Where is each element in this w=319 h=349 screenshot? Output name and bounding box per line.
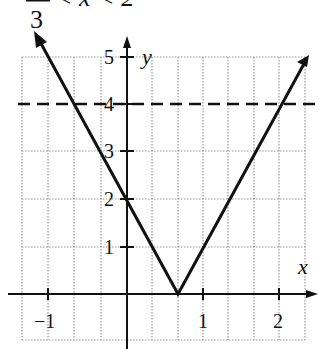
x-tick-label: 2 (273, 310, 283, 332)
grid (22, 57, 305, 340)
header-rest: < x < 2 (55, 0, 134, 12)
ticks (48, 57, 279, 300)
header-minus: − (2, 0, 17, 12)
y-tick-label: 1 (104, 236, 114, 258)
y-axis-label: y (140, 44, 152, 69)
y-axis-arrow-icon (123, 36, 131, 48)
graph-svg: −1 1 2 1 2 3 4 5 x y − 3 < x < 2 (0, 0, 319, 349)
y-tick-label: 2 (104, 188, 114, 210)
y-tick-label: 3 (104, 140, 114, 162)
y-tick-label: 4 (104, 93, 114, 115)
x-tick-label: 1 (198, 310, 208, 332)
header-frac-den: 3 (30, 5, 43, 34)
x-axis-label: x (297, 254, 308, 279)
axes (8, 42, 310, 349)
x-tick-label: −1 (34, 310, 55, 332)
chart-figure: −1 1 2 1 2 3 4 5 x y − 3 < x < 2 (0, 0, 319, 349)
x-axis-arrow-icon (306, 290, 318, 298)
abs-value-graph (38, 38, 305, 294)
y-tick-label: 5 (104, 46, 114, 68)
